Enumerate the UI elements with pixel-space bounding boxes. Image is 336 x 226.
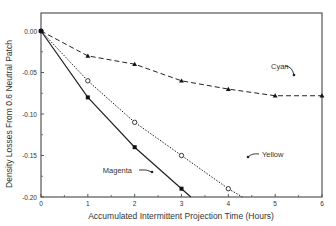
x-axis-label: Accumulated Intermittent Projection Time…: [88, 211, 274, 221]
x-tick-label: 1: [86, 200, 90, 207]
annotation-magenta: Magenta: [103, 166, 153, 175]
x-tick-label: 2: [133, 200, 137, 207]
y-axis-label: Density Losses From 0.6 Neutral Patch: [4, 40, 14, 188]
annotation-label: Magenta: [103, 166, 133, 175]
arrowhead-icon: [247, 156, 250, 159]
data-point: [133, 145, 137, 149]
y-tick-label: -0.15: [22, 152, 37, 159]
plot-area: [41, 13, 322, 197]
data-point: [86, 95, 90, 99]
annotation-label: Yellow: [262, 150, 284, 159]
y-tick-label: -0.10: [22, 111, 37, 118]
series-line: [41, 31, 242, 197]
annotation-cyan: Cyan: [271, 62, 295, 76]
plot-frame: [41, 13, 322, 197]
data-point: [85, 54, 90, 58]
series-yellow: [39, 29, 243, 197]
x-tick-label: 6: [320, 200, 324, 207]
x-tick-label: 5: [273, 200, 277, 207]
data-point: [132, 120, 136, 124]
arrowhead-icon: [151, 171, 154, 174]
series-group: [39, 29, 325, 197]
x-tick-label: 3: [180, 200, 184, 207]
y-tick-label: -0.05: [22, 69, 37, 76]
y-tick-label: 0.00: [24, 28, 37, 35]
annotations: CyanYellowMagenta: [103, 62, 295, 175]
x-tick-label: 0: [39, 200, 43, 207]
arrow-icon: [139, 170, 152, 172]
chart: 0.00-0.05-0.10-0.15-0.20 0123456 Accumul…: [0, 0, 336, 226]
annotation-label: Cyan: [271, 62, 289, 71]
arrowhead-icon: [293, 74, 296, 77]
data-point: [226, 187, 230, 191]
data-point: [39, 29, 43, 33]
arrow-icon: [248, 154, 259, 157]
data-point: [180, 187, 184, 191]
y-tick-label: -0.20: [22, 194, 37, 201]
annotation-yellow: Yellow: [247, 150, 284, 159]
x-tick-label: 4: [227, 200, 231, 207]
data-point: [86, 79, 90, 83]
data-point: [179, 153, 183, 157]
x-axis: 0123456: [39, 194, 324, 207]
